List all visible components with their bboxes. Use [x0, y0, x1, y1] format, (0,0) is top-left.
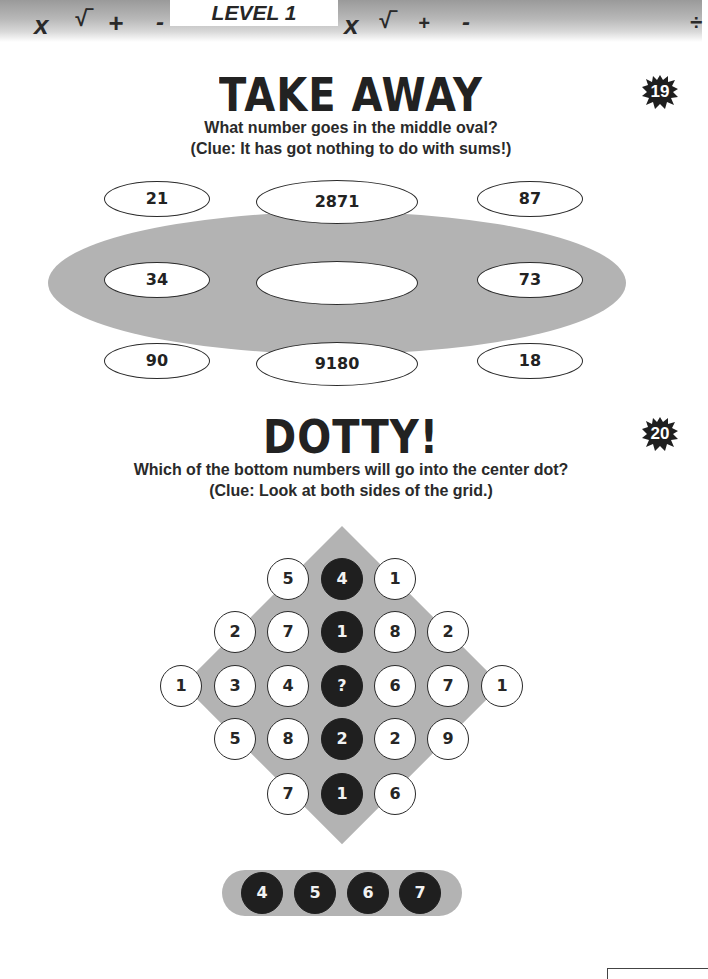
- grid-dot: 4: [321, 558, 363, 600]
- math-symbol-icon: √‾: [378, 8, 397, 34]
- grid-dot: 5: [214, 718, 256, 760]
- math-symbol-icon: x: [344, 10, 358, 41]
- grid-dot: 1: [321, 773, 363, 815]
- puzzle-20-question: Which of the bottom numbers will go into…: [0, 460, 702, 480]
- number-oval: 34: [104, 262, 210, 298]
- number-oval: 87: [477, 181, 583, 217]
- grid-dot: 4: [267, 665, 309, 707]
- puzzle-20-badge: 20: [640, 414, 680, 454]
- math-symbol-icon: -: [156, 8, 164, 36]
- number-oval: 73: [477, 262, 583, 298]
- grid-dot: 8: [267, 718, 309, 760]
- puzzle-20-clue: (Clue: Look at both sides of the grid.): [0, 481, 702, 501]
- grid-dot: 1: [321, 611, 363, 653]
- grid-dot: 2: [374, 718, 416, 760]
- puzzle-19-question: What number goes in the middle oval?: [0, 118, 702, 138]
- grid-dot: 2: [214, 611, 256, 653]
- number-oval: 21: [104, 181, 210, 217]
- grid-dot: 2: [427, 611, 469, 653]
- grid-dot: 1: [160, 665, 202, 707]
- puzzle-20-number: 20: [640, 414, 680, 454]
- level-label: LEVEL 1: [170, 0, 338, 26]
- number-oval: 90: [104, 343, 210, 379]
- puzzle-19-clue: (Clue: It has got nothing to do with sum…: [0, 139, 702, 159]
- number-oval: 18: [477, 343, 583, 379]
- grid-dot: 1: [374, 558, 416, 600]
- grid-dot: 7: [267, 773, 309, 815]
- puzzle-19-badge: 19: [640, 72, 680, 112]
- grid-dot: 7: [267, 611, 309, 653]
- number-oval: 9180: [256, 342, 418, 386]
- grid-dot: 9: [427, 718, 469, 760]
- math-symbol-icon: ÷: [690, 10, 702, 36]
- math-symbol-icon: +: [108, 8, 123, 39]
- number-oval: 2871: [256, 180, 418, 224]
- math-symbol-icon: -: [462, 8, 470, 36]
- grid-dot: 6: [374, 773, 416, 815]
- center-dot-unknown[interactable]: ?: [321, 665, 363, 707]
- puzzle-19-number: 19: [640, 72, 680, 112]
- puzzle-20-title: DOTTY!: [0, 411, 702, 464]
- math-symbol-icon: x: [34, 10, 48, 41]
- grid-dot: 6: [374, 665, 416, 707]
- answer-option-dot[interactable]: 5: [294, 872, 336, 914]
- page-corner-box: [607, 968, 708, 979]
- math-symbol-icon: √‾: [74, 6, 93, 32]
- grid-dot: 3: [214, 665, 256, 707]
- grid-dot: 1: [481, 665, 523, 707]
- answer-option-dot[interactable]: 7: [399, 872, 441, 914]
- grid-dot: 8: [374, 611, 416, 653]
- math-symbol-icon: +: [418, 12, 430, 35]
- answer-option-dot[interactable]: 6: [347, 872, 389, 914]
- answer-oval-blank[interactable]: [256, 261, 418, 305]
- grid-dot: 2: [321, 718, 363, 760]
- grid-dot: 5: [267, 558, 309, 600]
- answer-option-dot[interactable]: 4: [241, 872, 283, 914]
- grid-dot: 7: [427, 665, 469, 707]
- puzzle-19-title: TAKE AWAY: [0, 69, 702, 122]
